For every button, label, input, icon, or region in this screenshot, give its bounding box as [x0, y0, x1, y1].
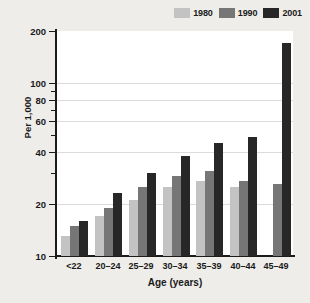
x-axis-tick-label: 25–29: [124, 261, 158, 271]
bar: [214, 143, 223, 256]
bar: [70, 226, 79, 256]
bar: [147, 173, 156, 256]
bar: [230, 187, 239, 256]
legend-swatch-2001: [263, 8, 279, 18]
x-axis-tick-label: 45–49: [259, 261, 293, 271]
bar: [172, 176, 181, 256]
y-axis-tick-label: 200: [6, 27, 46, 36]
x-axis-tick-label: 35–39: [192, 261, 226, 271]
bar: [248, 137, 257, 256]
chart-figure: 1980 1990 2001 2001008060402010 Per 1,00…: [0, 0, 310, 303]
bar-series-group: [57, 31, 293, 256]
x-axis-tick-label: 40–44: [226, 261, 260, 271]
legend-label-2001: 2001: [282, 8, 302, 18]
y-axis-tick-label: 10: [6, 252, 46, 261]
bar: [196, 181, 205, 256]
x-axis-tick-label: 20–24: [91, 261, 125, 271]
bar: [273, 184, 282, 256]
chart-legend: 1980 1990 2001: [160, 6, 302, 20]
bar: [163, 187, 172, 256]
x-axis-title: Age (years): [57, 277, 293, 288]
legend-entry-1990: 1990: [219, 8, 258, 18]
legend-swatch-1980: [174, 8, 190, 18]
x-axis-tick-label: 30–34: [158, 261, 192, 271]
legend-label-1990: 1990: [238, 8, 258, 18]
legend-entry-1980: 1980: [174, 8, 213, 18]
legend-swatch-1990: [219, 8, 235, 18]
bar: [205, 171, 214, 256]
x-axis-tick-label: <22: [57, 261, 91, 271]
bar: [79, 221, 88, 256]
bar: [282, 43, 291, 256]
bar: [138, 187, 147, 256]
legend-label-1980: 1980: [193, 8, 213, 18]
bar: [95, 216, 104, 256]
bar: [113, 193, 122, 256]
bar: [239, 181, 248, 256]
y-axis-tick-label: 20: [6, 200, 46, 209]
bar: [104, 208, 113, 256]
bar: [61, 236, 70, 256]
bar: [129, 200, 138, 256]
bar: [181, 156, 190, 256]
y-axis-title: Per 1,000: [22, 83, 33, 153]
legend-entry-2001: 2001: [263, 8, 302, 18]
